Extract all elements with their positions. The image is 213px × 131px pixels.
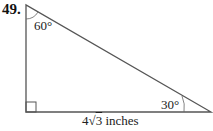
- side-unit: inches: [105, 113, 138, 128]
- radical-sign: √: [89, 113, 96, 128]
- angle-label-60: 60°: [34, 18, 52, 34]
- angle-arc-30: [182, 96, 184, 112]
- side-length-label: 4√3 inches: [82, 113, 139, 129]
- angle-label-30: 30°: [161, 97, 179, 113]
- right-angle-marker: [26, 102, 36, 112]
- triangle-diagram: [0, 0, 213, 131]
- triangle-shape: [26, 5, 211, 112]
- radicand: 3: [96, 113, 103, 128]
